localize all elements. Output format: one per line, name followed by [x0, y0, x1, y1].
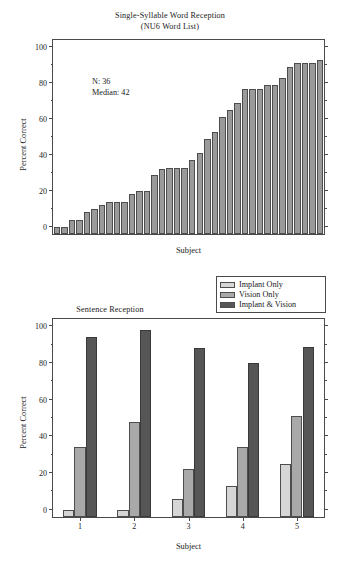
bar — [166, 168, 172, 234]
bar — [257, 89, 263, 235]
word-bars-layer — [53, 40, 324, 234]
y-tick-right — [324, 136, 327, 137]
y-tick — [51, 100, 54, 101]
y-tick — [49, 226, 53, 227]
bar — [76, 220, 82, 234]
bar — [174, 168, 180, 234]
panel-word-reception: Single-Syllable Word Reception (NU6 Word… — [0, 0, 340, 268]
bar — [84, 212, 90, 234]
x-tick-label: 5 — [295, 522, 299, 531]
x-tick-label: 3 — [187, 522, 191, 531]
bar — [69, 220, 75, 234]
bar — [159, 169, 165, 234]
bar — [309, 63, 315, 234]
y-tick-right — [324, 399, 328, 400]
y-tick — [49, 399, 53, 400]
bar — [280, 464, 291, 517]
legend-swatch-vision-only — [220, 292, 235, 298]
y-tick — [49, 190, 53, 191]
bar — [129, 194, 135, 234]
bar — [272, 85, 278, 234]
y-tick — [49, 46, 53, 47]
bar — [129, 422, 140, 517]
bar — [151, 175, 157, 234]
sentence-legend: Implant Only Vision Only Implant & Visio… — [216, 276, 326, 313]
bar — [291, 416, 302, 517]
y-tick-right — [324, 208, 327, 209]
bar — [317, 60, 323, 234]
y-tick-label: 40 — [39, 432, 47, 441]
x-tick-label: 1 — [78, 522, 82, 531]
y-tick — [49, 435, 53, 436]
bar — [212, 132, 218, 234]
bar — [106, 202, 112, 234]
sentence-y-axis-title: Percent Correct — [19, 388, 28, 458]
bar — [242, 89, 248, 235]
word-y-axis-title: Percent Correct — [19, 110, 28, 180]
bar — [287, 67, 293, 234]
y-tick-label: 60 — [39, 115, 47, 124]
y-tick — [49, 472, 53, 473]
bar — [204, 139, 210, 234]
y-tick-right — [324, 417, 327, 418]
sentence-plot-frame: 020406080100 12345 — [52, 318, 325, 518]
y-tick — [51, 344, 54, 345]
x-tick-label: 2 — [132, 522, 136, 531]
sentence-chart-title: Sentence Reception — [30, 304, 190, 315]
y-tick-label: 0 — [43, 222, 47, 231]
y-tick-label: 0 — [43, 505, 47, 514]
word-n-annotation: N: 36 — [92, 76, 110, 88]
legend-item-vision-only[interactable]: Vision Only — [220, 290, 321, 300]
word-chart-subtitle: (NU6 Word List) — [0, 21, 340, 32]
word-x-axis-title: Subject — [52, 246, 325, 255]
y-tick — [49, 509, 53, 510]
bar — [136, 191, 142, 234]
y-tick-right — [324, 380, 327, 381]
y-tick-right — [324, 435, 328, 436]
y-tick-label: 100 — [35, 322, 47, 331]
legend-label-vision-only: Vision Only — [239, 290, 279, 300]
y-tick-right — [324, 362, 328, 363]
legend-label-implant-only: Implant Only — [239, 280, 283, 290]
y-tick — [49, 82, 53, 83]
y-tick — [49, 118, 53, 119]
y-tick — [51, 208, 54, 209]
bar — [227, 110, 233, 234]
legend-swatch-implant-and-vision — [220, 302, 235, 308]
y-tick-right — [324, 46, 328, 47]
bar — [294, 63, 300, 234]
x-tick — [189, 517, 190, 521]
bar — [279, 78, 285, 234]
bar — [91, 209, 97, 234]
y-tick — [51, 454, 54, 455]
bar — [117, 510, 128, 517]
x-tick — [134, 517, 135, 521]
legend-item-implant-and-vision[interactable]: Implant & Vision — [220, 300, 321, 310]
bar — [99, 205, 105, 234]
bar — [140, 330, 151, 517]
legend-swatch-implant-only — [220, 282, 235, 288]
bar — [237, 447, 248, 517]
bar — [226, 486, 237, 517]
bar — [61, 227, 67, 234]
legend-label-implant-and-vision: Implant & Vision — [239, 300, 296, 310]
word-plot-area: 020406080100 — [53, 40, 324, 234]
y-tick-right — [324, 325, 328, 326]
y-tick-right — [324, 154, 328, 155]
x-tick-label: 4 — [241, 522, 245, 531]
word-plot-frame: 020406080100 — [52, 39, 325, 235]
legend-item-implant-only[interactable]: Implant Only — [220, 280, 321, 290]
bar — [234, 103, 240, 234]
x-tick — [243, 517, 244, 521]
y-tick — [51, 172, 54, 173]
y-tick — [49, 154, 53, 155]
bar — [144, 191, 150, 234]
y-tick — [49, 362, 53, 363]
panel-sentence-reception: Sentence Reception Implant Only Vision O… — [0, 270, 340, 571]
y-tick-label: 60 — [39, 395, 47, 404]
y-tick-label: 80 — [39, 359, 47, 368]
y-tick — [51, 417, 54, 418]
y-tick — [51, 490, 54, 491]
figure-root: Single-Syllable Word Reception (NU6 Word… — [0, 0, 340, 571]
y-tick-right — [324, 226, 328, 227]
